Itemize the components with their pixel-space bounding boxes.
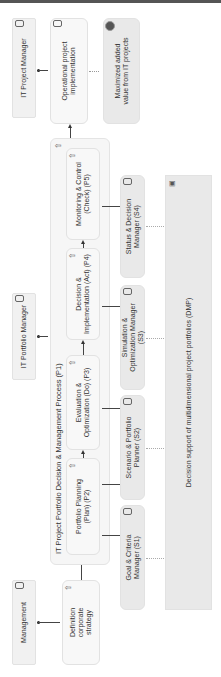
cylinder-icon <box>123 508 132 515</box>
cylinder-icon <box>123 178 132 185</box>
system-label: Scenario & Portfolio Planner (S2) <box>125 415 141 480</box>
flow-line <box>102 206 120 207</box>
goal-label: Maximized added value from IT projects <box>114 36 130 106</box>
connector-line <box>38 70 48 71</box>
target-icon <box>105 21 115 31</box>
flow-line <box>102 408 120 409</box>
dotted-connector <box>146 338 164 339</box>
up-arrow-icon: ⇧ <box>69 462 77 469</box>
process-step-p4[interactable]: Decision & Implementation (Act) (P4) <box>66 248 100 340</box>
up-arrow-icon: ⇧ <box>55 142 63 149</box>
arrow-head <box>68 124 72 128</box>
system-s4[interactable]: Status & Decision Manager (S4) <box>120 175 145 278</box>
step-label: Decision & Implementation (Act) (P4) <box>75 254 91 334</box>
system-s2[interactable]: Scenario & Portfolio Planner (S2) <box>120 395 145 500</box>
cylinder-icon <box>53 20 62 27</box>
flow-line <box>102 484 120 485</box>
up-arrow-icon: ⇧ <box>69 359 77 366</box>
system-label: Status & Decision Manager (S4) <box>125 197 141 257</box>
process-step-p3[interactable]: Evaluation & Optimization (Do) (P3) <box>66 355 100 450</box>
flow-line <box>102 306 120 307</box>
step-label: Portfolio Planning (Plan) (P2) <box>75 472 91 542</box>
dmp-application[interactable]: Decision support of multidimensional pro… <box>165 175 212 610</box>
actor-label: IT Portfolio Manager <box>20 305 28 368</box>
process-title: IT Project Portfolio Decision & Manageme… <box>54 363 63 554</box>
goal-maximized-value[interactable]: Maximized added value from IT projects <box>103 18 140 124</box>
actor-it-portfolio-manager[interactable]: IT Portfolio Manager <box>12 293 36 380</box>
up-arrow-icon: ⇧ <box>69 152 77 159</box>
system-label: Goal & Criteria Manager (S1) <box>125 528 141 588</box>
activity-definition-strategy[interactable]: Definition corporate strategy <box>62 580 100 665</box>
dotted-connector <box>146 448 164 449</box>
system-s3[interactable]: Simulation & Optimization Manager (S3) <box>120 285 145 390</box>
role-icon <box>15 582 24 589</box>
role-icon <box>15 295 24 302</box>
connector-line <box>38 336 48 337</box>
application-icon: ▣ <box>168 180 176 187</box>
dotted-connector <box>146 226 164 227</box>
up-arrow-icon: ⇧ <box>69 252 77 259</box>
step-label: Evaluation & Optimization (Do) (P3) <box>75 363 91 443</box>
activity-operational-implementation[interactable]: Operational project implementation <box>50 18 88 124</box>
role-icon <box>15 20 24 27</box>
cylinder-icon <box>123 288 132 295</box>
actor-label: IT Project Manager <box>20 38 28 97</box>
actor-it-project-manager[interactable]: IT Project Manager <box>12 18 36 118</box>
process-step-p2[interactable]: Portfolio Planning (Plan) (P2) <box>66 458 100 555</box>
system-s1[interactable]: Goal & Criteria Manager (S1) <box>120 505 145 610</box>
connector-line <box>38 622 60 623</box>
cylinder-icon <box>123 398 132 405</box>
activity-label: Operational project implementation <box>61 31 77 111</box>
up-arrow-icon: ⇧ <box>65 584 73 591</box>
diagram-canvas: Management IT Portfolio Manager IT Proje… <box>0 0 221 677</box>
arrow-head <box>81 340 85 344</box>
flow-line <box>102 535 120 536</box>
dmp-label: Decision support of multidimensional pro… <box>185 298 193 487</box>
arrow-head <box>81 450 85 454</box>
step-label: Monitoring & Control (Check) (P5) <box>75 159 91 229</box>
activity-label: Definition corporate strategy <box>69 598 93 648</box>
actor-management[interactable]: Management <box>12 580 36 665</box>
dotted-connector <box>146 558 164 559</box>
actor-label: Management <box>20 602 28 643</box>
arrow-head <box>81 240 85 244</box>
system-label: Simulation & Optimization Manager (S3) <box>121 298 145 378</box>
process-step-p5[interactable]: Monitoring & Control (Check) (P5) <box>66 148 100 240</box>
dotted-connector <box>89 70 99 72</box>
flow-line <box>81 565 82 580</box>
